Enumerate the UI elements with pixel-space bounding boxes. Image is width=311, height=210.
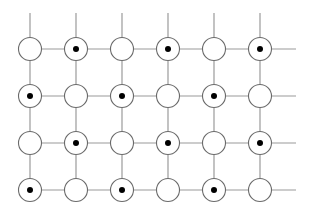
particle-dot-icon [73,46,79,52]
particle-dot-icon [165,140,171,146]
empty-site-node [19,38,42,61]
empty-site-node [249,85,272,108]
site-circle [249,85,272,108]
occupied-site-node [111,85,134,108]
site-circle [65,85,88,108]
site-circle [203,38,226,61]
empty-site-node [65,179,88,202]
particle-dot-icon [257,46,263,52]
empty-site-node [111,132,134,155]
particle-dot-icon [27,187,33,193]
empty-site-node [157,85,180,108]
occupied-site-node [111,179,134,202]
empty-site-node [203,132,226,155]
occupied-site-node [157,132,180,155]
lattice-diagram [0,0,311,210]
particle-dot-icon [257,140,263,146]
site-circle [249,179,272,202]
empty-site-node [203,38,226,61]
site-circle [203,132,226,155]
occupied-site-node [249,132,272,155]
particle-dot-icon [73,140,79,146]
site-circle [19,132,42,155]
grid-nodes [19,38,272,202]
occupied-site-node [19,85,42,108]
particle-dot-icon [119,187,125,193]
particle-dot-icon [27,93,33,99]
particle-dot-icon [211,187,217,193]
occupied-site-node [157,38,180,61]
empty-site-node [19,132,42,155]
occupied-site-node [19,179,42,202]
occupied-site-node [65,38,88,61]
occupied-site-node [65,132,88,155]
empty-site-node [249,179,272,202]
occupied-site-node [203,179,226,202]
site-circle [111,132,134,155]
particle-dot-icon [119,93,125,99]
empty-site-node [65,85,88,108]
particle-dot-icon [211,93,217,99]
occupied-site-node [249,38,272,61]
site-circle [19,38,42,61]
site-circle [157,179,180,202]
site-circle [65,179,88,202]
empty-site-node [157,179,180,202]
particle-dot-icon [165,46,171,52]
site-circle [111,38,134,61]
site-circle [157,85,180,108]
occupied-site-node [203,85,226,108]
empty-site-node [111,38,134,61]
